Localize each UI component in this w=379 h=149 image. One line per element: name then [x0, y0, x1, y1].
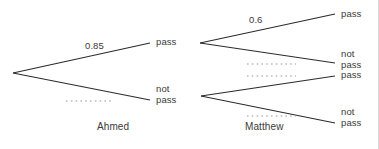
outcome-label-ahmed-not-pass: not pass [156, 84, 176, 105]
branch-matthew-upper-not-pass [200, 43, 335, 63]
branch-matthew-upper-pass [200, 14, 335, 43]
outcome-label-ahmed-pass: pass [156, 37, 176, 48]
matthew-upper-branch-group [200, 14, 335, 64]
outcome-label-matthew-upper-not-pass: not pass [341, 49, 361, 70]
tree-branches-svg [0, 0, 379, 149]
ahmed-branch-group [13, 43, 150, 101]
outcome-label-matthew-lower-not-pass: not pass [341, 107, 361, 128]
stage-label-ahmed: Ahmed [97, 121, 129, 132]
probability-label-ahmed-pass: 0.85 [85, 41, 104, 52]
outcome-label-matthew-lower-pass: pass [341, 70, 361, 81]
stage-label-matthew: Matthew [245, 121, 284, 132]
branch-matthew-lower-not-pass [201, 96, 335, 123]
branch-ahmed-pass [13, 43, 150, 73]
matthew-lower-branch-group [201, 76, 335, 123]
branch-matthew-lower-pass [201, 76, 335, 96]
probability-label-matthew-upper-pass: 0.6 [249, 15, 263, 26]
probability-tree-diagram: 0.85 pass not pass 0.6 pass not pass pas… [0, 0, 379, 149]
outcome-label-matthew-upper-pass: pass [341, 9, 361, 20]
branch-ahmed-not-pass [13, 73, 150, 100]
